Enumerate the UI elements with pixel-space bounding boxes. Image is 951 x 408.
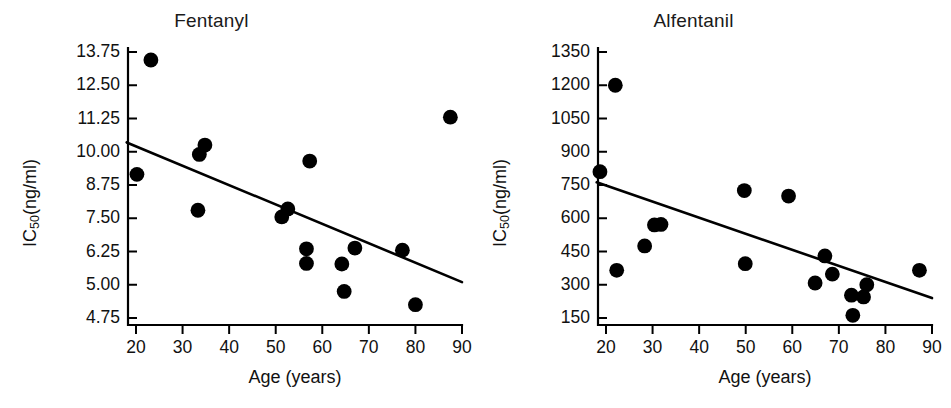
data-point bbox=[608, 78, 623, 93]
data-point bbox=[299, 241, 314, 256]
data-point bbox=[859, 277, 874, 292]
data-point bbox=[637, 239, 652, 254]
data-point bbox=[825, 267, 840, 282]
plot-area-alfentanil bbox=[470, 0, 945, 408]
chart-panel-alfentanil: Alfentanil 13501200105090075060045030015… bbox=[470, 0, 945, 408]
axis-frame bbox=[128, 48, 462, 325]
data-point bbox=[302, 154, 317, 169]
data-point bbox=[845, 308, 860, 323]
data-point bbox=[609, 263, 624, 278]
data-point bbox=[130, 167, 145, 182]
data-point bbox=[337, 284, 352, 299]
data-point bbox=[334, 257, 349, 272]
data-point bbox=[737, 183, 752, 198]
figure-root: Fentanyl 13.7512.5011.2510.008.757.506.2… bbox=[0, 0, 951, 408]
data-point bbox=[395, 243, 410, 258]
data-point bbox=[280, 202, 295, 217]
data-point bbox=[654, 217, 669, 232]
data-point bbox=[808, 276, 823, 291]
data-point bbox=[781, 189, 796, 204]
data-point bbox=[593, 164, 608, 179]
data-point bbox=[347, 241, 362, 256]
axis-frame bbox=[598, 48, 932, 325]
data-point bbox=[299, 256, 314, 271]
data-point bbox=[912, 263, 927, 278]
data-point bbox=[817, 249, 832, 264]
data-point bbox=[443, 110, 458, 125]
data-point bbox=[191, 203, 206, 218]
data-point bbox=[198, 138, 213, 153]
data-point bbox=[738, 256, 753, 271]
plot-area-fentanyl bbox=[0, 0, 475, 408]
data-point bbox=[144, 53, 159, 68]
chart-panel-fentanyl: Fentanyl 13.7512.5011.2510.008.757.506.2… bbox=[0, 0, 475, 408]
data-point bbox=[408, 297, 423, 312]
